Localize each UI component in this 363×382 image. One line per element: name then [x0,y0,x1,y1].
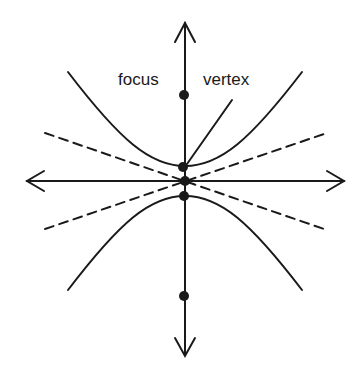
vertex-label: vertex [203,71,249,88]
lower-vertex [179,191,189,201]
hyperbola-diagram [0,0,363,382]
center [180,176,190,186]
vertex-pointer-line [187,100,232,164]
upper-vertex [178,162,188,172]
upper-focus [179,90,189,100]
lower-focus [179,291,189,301]
focus-label: focus [118,71,159,88]
